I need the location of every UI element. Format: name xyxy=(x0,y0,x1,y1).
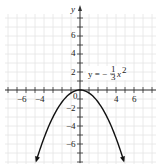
y-axis-arrow-icon xyxy=(78,5,82,11)
y-tick-label: −6 xyxy=(66,139,76,149)
y-tick-label: −4 xyxy=(66,121,76,131)
equation-variable: x xyxy=(116,69,121,79)
x-tick-label: 4 xyxy=(114,94,119,104)
x-tick-label: −6 xyxy=(17,94,27,104)
curve-arrow-right-icon xyxy=(120,156,125,162)
equation-exponent: 2 xyxy=(122,65,127,75)
y-tick-label: 2 xyxy=(71,67,76,77)
x-tick-label: −4 xyxy=(35,94,45,104)
origin-label: 0 xyxy=(73,91,78,101)
y-axis-label: y xyxy=(70,4,75,14)
y-tick-label: 6 xyxy=(71,30,76,40)
y-axis xyxy=(78,5,82,163)
y-tick-label: −2 xyxy=(66,103,76,113)
curve-arrow-left-icon xyxy=(35,156,40,162)
x-tick-label: 6 xyxy=(132,94,137,104)
equation-annotation: y = − 1 3 x 2 xyxy=(86,64,127,82)
equation-denominator: 3 xyxy=(111,72,116,82)
chart-plot: y 0 −6 −4 4 6 6 4 2 −2 −4 −6 y = − 1 3 x… xyxy=(0,0,161,164)
equation-prefix: y = − xyxy=(88,69,107,79)
y-tick-label: 4 xyxy=(71,48,76,58)
